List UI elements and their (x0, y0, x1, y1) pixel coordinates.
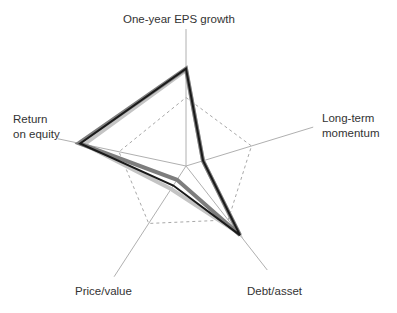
axis-label-price: Price/value (75, 284, 132, 299)
axis-label-debt: Debt/asset (247, 284, 302, 299)
axis-line (186, 127, 313, 166)
axis-label-eps: One-year EPS growth (123, 12, 235, 27)
axis-line (186, 166, 267, 270)
series-polygon (79, 69, 240, 235)
radar-axes (58, 29, 313, 277)
axis-line (114, 166, 186, 277)
axis-label-momentum: Long-term momentum (322, 111, 380, 141)
radar-series (79, 69, 240, 235)
axis-label-roe: Return on equity (13, 112, 60, 142)
reference-pentagon (119, 98, 252, 224)
radar-chart (0, 0, 397, 313)
series-polygon (84, 70, 238, 233)
